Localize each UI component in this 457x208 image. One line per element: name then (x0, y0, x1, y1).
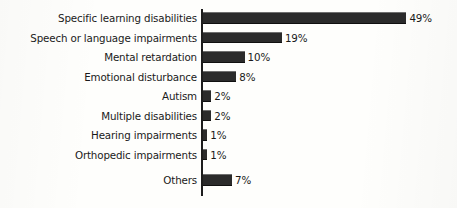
bar-category-label: Orthopedic impairments (2, 148, 197, 162)
bar-category-label: Speech or language impairments (2, 31, 197, 45)
bar-value-label: 10% (245, 50, 271, 64)
bar-category-label: Hearing impairments (2, 128, 197, 142)
bar-category-label: Specific learning disabilities (2, 11, 197, 25)
bar-value-label: 8% (236, 70, 255, 84)
bar-rect[interactable] (203, 71, 236, 83)
bar-category-label: Multiple disabilities (2, 109, 197, 123)
bar-rect[interactable] (203, 110, 211, 122)
bar-value-label: 1% (207, 148, 226, 162)
bar-value-label: 19% (282, 31, 308, 45)
bar-row[interactable]: Others 7% (0, 173, 457, 193)
bar-category-label: Autism (2, 89, 197, 103)
bar-row[interactable]: Specific learning disabilities 49% (0, 11, 457, 31)
bar-row[interactable]: Orthopedic impairments 1% (0, 148, 457, 168)
bar-row[interactable]: Mental retardation 10% (0, 50, 457, 70)
bar-rect[interactable] (203, 12, 406, 24)
bar-row[interactable]: Multiple disabilities 2% (0, 109, 457, 129)
bar-row[interactable]: Speech or language impairments 19% (0, 31, 457, 51)
bar-value-label: 2% (211, 89, 230, 103)
bar-rect[interactable] (203, 51, 245, 63)
bar-category-label: Mental retardation (2, 50, 197, 64)
plot-area: Specific learning disabilities 49% Speec… (0, 0, 457, 208)
bar-value-label: 49% (406, 11, 432, 25)
bar-category-label: Others (2, 173, 197, 187)
bar-value-label: 7% (232, 173, 251, 187)
bar-row[interactable]: Autism 2% (0, 89, 457, 109)
bar-category-label: Emotional disturbance (2, 70, 197, 84)
bar-row[interactable]: Emotional disturbance 8% (0, 70, 457, 90)
bar-rect[interactable] (203, 90, 211, 102)
bar-value-label: 2% (211, 109, 230, 123)
bar-chart-figure: Specific learning disabilities 49% Speec… (0, 0, 457, 208)
bar-rect[interactable] (203, 32, 282, 44)
bar-row[interactable]: Hearing impairments 1% (0, 128, 457, 148)
bar-rect[interactable] (203, 174, 232, 186)
bar-value-label: 1% (207, 128, 226, 142)
